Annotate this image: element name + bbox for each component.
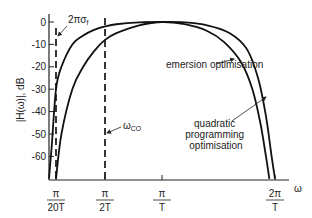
series-quadratic-programming-line: [49, 22, 275, 179]
annotation-qp-line-3: optimisation: [189, 140, 242, 151]
y-tick-label: -50: [32, 129, 47, 140]
series-group: [49, 22, 275, 179]
y-tick-label: -60: [32, 151, 47, 162]
x-axis-label: ω: [294, 183, 302, 194]
x-tick-denominator: 2T: [99, 202, 111, 213]
marker-label-subscript: f: [87, 19, 89, 26]
x-tick-numerator: π: [102, 188, 109, 199]
series-emersion-line: [56, 22, 269, 179]
marker-arrow-2pi-sigma-f: [58, 26, 67, 36]
marker-label-main: ω: [123, 120, 131, 131]
x-tick-numerator: 2π: [269, 188, 282, 199]
chart: ω |H(ω)|, dB 0-10-20-30-40-50-60 π20Tπ2T…: [0, 0, 312, 218]
y-tick-label: -10: [32, 39, 47, 50]
y-tick-label: 0: [40, 17, 46, 28]
x-tick-denominator: 20T: [47, 202, 64, 213]
x-tick-denominator: T: [272, 202, 278, 213]
x-tick-denominator: T: [159, 202, 165, 213]
marker-label-subscript: CO: [131, 125, 142, 132]
annotation-emersion-optimisation: emersion optimisation: [166, 59, 263, 70]
y-axis-label: |H(ω)|, dB: [15, 77, 26, 122]
y-tick-label: -30: [32, 84, 47, 95]
marker-lines: 2πσfωCO: [56, 14, 142, 180]
x-tick-numerator: π: [53, 188, 60, 199]
marker-label-main: 2πσ: [68, 14, 87, 25]
annotation-quadratic-programming-optimisation: quadratic programming optimisation: [185, 118, 247, 151]
annotations: emersion optimisation quadratic programm…: [166, 59, 266, 151]
y-tick-label: -40: [32, 106, 47, 117]
annotation-qp-arrow: [232, 97, 266, 121]
y-tick-label: -20: [32, 61, 47, 72]
annotation-qp-line-2: programming: [185, 129, 244, 140]
x-tick-numerator: π: [159, 188, 166, 199]
marker-label-omega-co: ωCO: [123, 120, 142, 132]
annotation-qp-line-1: quadratic: [194, 118, 235, 129]
marker-label-2pi-sigma-f: 2πσf: [68, 14, 89, 26]
x-ticks: π20Tπ2TπT2πT: [47, 175, 284, 213]
marker-arrow-omega-co: [107, 127, 121, 133]
y-ticks: 0-10-20-30-40-50-60: [32, 17, 54, 162]
